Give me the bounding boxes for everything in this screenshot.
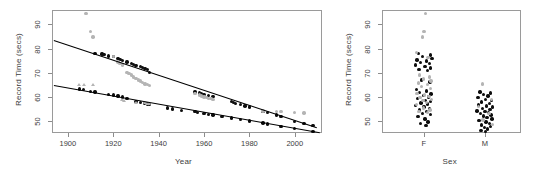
y-tick-label-50: 50 <box>363 114 372 128</box>
data-point <box>485 116 488 119</box>
data-point <box>417 81 420 84</box>
data-point <box>417 110 420 113</box>
x-tick-label-F: F <box>414 139 434 148</box>
x-tick-1940 <box>159 133 160 137</box>
data-point <box>180 109 183 112</box>
data-point <box>485 104 488 107</box>
data-point <box>430 57 433 60</box>
data-point <box>416 115 419 118</box>
y-tick-50 <box>378 121 382 122</box>
y-tick-label-80: 80 <box>33 42 42 56</box>
y-tick-label-60: 60 <box>33 90 42 104</box>
y-tick-60 <box>378 97 382 98</box>
y-tick-label-70: 70 <box>363 66 372 80</box>
x-tick-label-1960: 1960 <box>194 139 214 148</box>
x-tick-1920 <box>113 133 114 137</box>
y-tick-60 <box>48 97 52 98</box>
data-point <box>77 83 81 86</box>
x-tick-1900 <box>68 133 69 137</box>
y-tick-90 <box>48 24 52 25</box>
y-axis-label-left: Record Time (secs) <box>14 33 23 106</box>
x-tick-F <box>424 133 425 137</box>
data-point <box>477 119 480 122</box>
data-point <box>414 63 417 66</box>
y-tick-label-90: 90 <box>33 18 42 32</box>
figure-root: Record Time (secs) Year 1900192019401960… <box>0 0 541 172</box>
data-point <box>421 112 424 115</box>
x-tick-1980 <box>249 133 250 137</box>
y-tick-80 <box>48 49 52 50</box>
x-tick-label-1920: 1920 <box>103 139 123 148</box>
data-point <box>422 77 425 80</box>
data-point <box>424 124 427 127</box>
data-point <box>486 94 489 97</box>
x-tick-label-1900: 1900 <box>58 139 78 148</box>
data-point <box>421 99 424 102</box>
data-point <box>487 112 490 115</box>
data-point <box>422 106 425 109</box>
y-tick-80 <box>378 49 382 50</box>
data-point <box>421 35 424 38</box>
y-tick-70 <box>378 73 382 74</box>
data-point <box>490 117 493 120</box>
data-point <box>479 129 482 132</box>
x-tick-1960 <box>204 133 205 137</box>
data-point <box>171 107 174 110</box>
y-tick-label-50: 50 <box>33 114 42 128</box>
data-point <box>134 101 138 104</box>
data-point <box>122 99 126 102</box>
data-point <box>417 68 420 71</box>
y-tick-label-60: 60 <box>363 90 372 104</box>
y-tick-90 <box>378 24 382 25</box>
x-tick-label-2000: 2000 <box>285 139 305 148</box>
y-tick-label-70: 70 <box>33 66 42 80</box>
data-point <box>415 92 418 95</box>
data-point <box>423 93 426 96</box>
data-point <box>481 118 484 121</box>
y-tick-70 <box>48 73 52 74</box>
data-point <box>480 100 483 103</box>
y-axis-label-right: Record Time (secs) <box>344 33 353 106</box>
data-point <box>91 35 94 38</box>
data-point <box>429 79 432 82</box>
data-point <box>211 98 214 101</box>
x-tick-label-1980: 1980 <box>239 139 259 148</box>
data-point <box>481 82 484 85</box>
data-point <box>82 83 86 86</box>
data-point <box>91 83 95 86</box>
y-tick-50 <box>48 121 52 122</box>
data-point <box>477 105 480 108</box>
data-point <box>84 12 87 15</box>
x-tick-2000 <box>295 133 296 137</box>
x-axis-label-left: Year <box>175 157 192 166</box>
x-tick-label-M: M <box>475 139 495 148</box>
x-axis-label-right: Sex <box>443 157 457 166</box>
x-tick-M <box>485 133 486 137</box>
plot-frame-right <box>382 10 521 133</box>
data-point <box>491 123 494 126</box>
x-tick-label-1940: 1940 <box>149 139 169 148</box>
data-point <box>302 111 305 114</box>
y-tick-label-80: 80 <box>363 42 372 56</box>
y-tick-label-90: 90 <box>363 18 372 32</box>
data-point <box>423 65 426 68</box>
data-point <box>193 92 196 95</box>
